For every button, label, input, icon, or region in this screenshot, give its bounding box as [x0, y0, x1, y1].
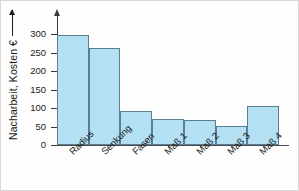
y-axis-direction-arrow-icon: [12, 10, 13, 36]
y-axis-tick-label: 100: [20, 102, 46, 113]
bar-chart-figure: Nacharbeit, Kosten € 050100150200250300 …: [0, 0, 299, 191]
y-axis-title: Nacharbeit, Kosten €: [7, 10, 19, 140]
y-axis-tick-label: 150: [20, 84, 46, 95]
y-axis-tick: [51, 145, 57, 146]
y-axis-tick-label: 0: [20, 139, 46, 150]
y-axis-tick-label: 200: [20, 65, 46, 76]
bar: [57, 35, 89, 145]
y-axis-title-text: Nacharbeit, Kosten €: [7, 40, 19, 140]
y-axis-tick-label: 300: [20, 28, 46, 39]
y-axis-tick-label: 250: [20, 47, 46, 58]
plot-area: [57, 27, 279, 145]
y-axis-tick-label: 50: [20, 121, 46, 132]
